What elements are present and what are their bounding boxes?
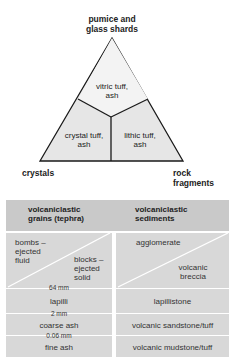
field-vitric-line1: vitric tuff, [82,82,142,91]
bombs-line3: fluid [15,256,46,265]
cell-volcanic-breccia: volcanic breccia [171,263,215,281]
field-vitric-tuff: vitric tuff, ash [82,82,142,100]
cell-fine-ash: fine ash [6,343,112,352]
table-row-coarse: bombs – ejected fluid blocks – ejected s… [6,233,229,288]
cell-volcanic-mudstone: volcanic mudstone/tuff [116,343,229,352]
header-sediments-line2: sediments [135,214,187,223]
header-grains: volcaniclastic grains (tephra) [28,205,84,223]
cell-volcanic-sandstone: volcanic sandstone/tuff [116,321,229,330]
header-grains-line2: grains (tephra) [28,214,84,223]
field-crystal-line1: crystal tuff, [56,131,112,140]
corner-label-crystals: crystals [22,168,54,178]
header-sediments: volcaniclastic sediments [135,205,187,223]
bombs-line2: ejected [15,247,46,256]
field-lithic-tuff: lithic tuff, ash [112,131,168,149]
size-limit-2mm: 2 mm [6,310,112,317]
breccia-line2: breccia [171,272,215,281]
field-vitric-line2: ash [82,91,142,100]
corner-label-rock-line1: rock [173,168,214,178]
cell-blocks: blocks – ejected solid [74,255,103,282]
cell-coarse-ash: coarse ash [6,321,112,330]
bombs-line1: bombs – [15,238,46,247]
blocks-line3: solid [74,273,103,282]
classification-table: volcaniclastic grains (tephra) volcanicl… [6,200,229,357]
corner-label-rock-fragments: rock fragments [173,168,214,188]
size-limit-64mm: 64 mm [6,284,112,291]
cell-bombs: bombs – ejected fluid [15,238,46,265]
field-crystal-tuff: crystal tuff, ash [56,131,112,149]
blocks-line2: ejected [74,264,103,273]
corner-label-rock-line2: fragments [173,178,214,188]
blocks-line1: blocks – [74,255,103,264]
column-divider [112,233,116,357]
header-grains-line1: volcaniclastic [28,205,84,214]
header-sediments-line1: volcaniclastic [135,205,187,214]
breccia-line1: volcanic [171,263,215,272]
cell-agglomerate: agglomerate [136,238,180,247]
table-row-fine-ash: fine ash volcanic mudstone/tuff [6,336,229,357]
cell-lapilli: lapilli [6,297,112,306]
cell-lapillistone: lapillistone [116,297,229,306]
size-limit-006mm: 0.06 mm [6,332,112,339]
field-crystal-line2: ash [56,140,112,149]
field-lithic-line2: ash [112,140,168,149]
table-header: volcaniclastic grains (tephra) volcanicl… [6,200,229,231]
field-lithic-line1: lithic tuff, [112,131,168,140]
